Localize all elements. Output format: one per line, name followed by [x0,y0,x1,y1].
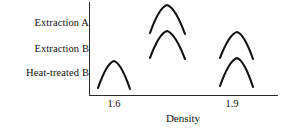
density-peak-curve [220,58,253,87]
density-curves-svg [0,0,287,130]
density-figure: Extraction A Extraction B Heat-treated B… [0,0,287,130]
density-peak-curve [150,31,185,59]
density-peak-curve [220,32,253,59]
density-curves-layer [0,0,287,130]
density-peak-curve [98,61,130,89]
density-peak-curve [150,5,185,34]
